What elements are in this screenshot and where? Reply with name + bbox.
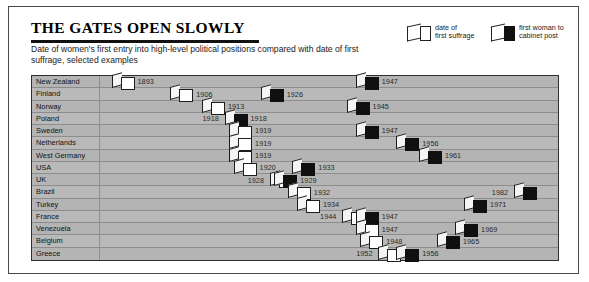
marker-cabinet-year: 1961 xyxy=(445,151,461,160)
chart-plot-area: New ZealandFinlandNorwayPolandSwedenNeth… xyxy=(31,75,559,261)
marker-suffrage-year: 1948 xyxy=(386,237,402,246)
marker-cabinet-year: 1926 xyxy=(287,90,303,99)
gate-black-icon xyxy=(491,23,515,41)
legend: date of first suffrage first woman to ca… xyxy=(407,23,575,53)
marker-cabinet xyxy=(292,161,313,175)
marker-cabinet-year: 1947 xyxy=(382,77,398,86)
marker-suffrage-year: 1893 xyxy=(138,77,154,86)
marker-suffrage-year: 1952 xyxy=(356,249,372,258)
marker-cabinet-year: 1933 xyxy=(318,163,334,172)
gate-white-icon xyxy=(407,23,431,41)
legend-item-suffrage: date of first suffrage xyxy=(407,23,474,41)
marker-cabinet-year: 1971 xyxy=(490,200,506,209)
legend-item-cabinet: first woman to cabinet post xyxy=(491,23,564,41)
marker-cabinet-year: 1947 xyxy=(382,126,398,135)
marker-cabinet xyxy=(261,87,282,101)
marker-cabinet xyxy=(455,222,476,236)
marker-cabinet xyxy=(356,124,377,138)
marker-suffrage-year: 1918 xyxy=(203,114,219,123)
marker-suffrage xyxy=(297,198,318,212)
marker-cabinet-year: 1982 xyxy=(492,188,508,197)
marker-cabinet xyxy=(514,185,535,199)
marker-cabinet xyxy=(396,247,417,261)
marker-cabinet xyxy=(419,149,440,163)
marker-suffrage-year: 1932 xyxy=(314,188,330,197)
marker-cabinet-year: 1945 xyxy=(373,102,389,111)
marker-cabinet-year: 1969 xyxy=(481,225,497,234)
marker-cabinet-year: 1947 xyxy=(382,212,398,221)
marker-suffrage-year: 1919 xyxy=(255,139,271,148)
marker-cabinet xyxy=(464,198,485,212)
marker-suffrage-year: 1947 xyxy=(382,225,398,234)
marker-cabinet xyxy=(437,234,458,248)
marker-cabinet xyxy=(347,100,368,114)
marker-suffrage xyxy=(170,87,191,101)
marker-cabinet xyxy=(356,75,377,89)
marker-cabinet-year: 1956 xyxy=(422,249,438,258)
marker-suffrage-year: 1919 xyxy=(255,126,271,135)
marker-suffrage-year: 1934 xyxy=(323,200,339,209)
chart-frame: THE GATES OPEN SLOWLY Date of women's fi… xyxy=(8,6,579,274)
marker-layer: 1893194719061926191319451918191819191947… xyxy=(32,76,558,260)
legend-label-cabinet: first woman to cabinet post xyxy=(519,24,564,41)
marker-suffrage xyxy=(112,75,133,89)
marker-cabinet-year: 1965 xyxy=(463,237,479,246)
page-title: THE GATES OPEN SLOWLY xyxy=(31,19,245,37)
chart-subtitle: Date of women's first entry into high-le… xyxy=(31,44,391,65)
marker-suffrage xyxy=(234,161,255,175)
marker-cabinet-year: 1918 xyxy=(251,114,267,123)
marker-suffrage-year: 1944 xyxy=(320,212,336,221)
marker-cabinet-year: 1929 xyxy=(300,176,316,185)
marker-suffrage xyxy=(202,100,223,114)
marker-suffrage-year: 1928 xyxy=(248,176,264,185)
marker-suffrage-year: 1919 xyxy=(255,151,271,160)
title-underline xyxy=(31,40,259,43)
legend-label-suffrage: date of first suffrage xyxy=(435,24,474,41)
marker-cabinet xyxy=(396,136,417,150)
